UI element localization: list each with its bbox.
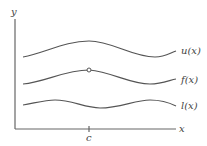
f-open-point: [87, 68, 91, 72]
x-axis-label: x: [179, 123, 185, 134]
l-curve-label: l(x): [181, 100, 198, 111]
f-curve: [23, 70, 176, 84]
f-curve-label: f(x): [180, 74, 198, 85]
l-curve: [23, 100, 176, 108]
u-curve-label: u(x): [181, 45, 201, 56]
u-curve: [23, 41, 176, 57]
c-tick-label: c: [86, 132, 92, 143]
y-axis-label: y: [10, 6, 17, 17]
squeeze-theorem-diagram: y x c u(x) f(x) l(x): [0, 0, 207, 146]
